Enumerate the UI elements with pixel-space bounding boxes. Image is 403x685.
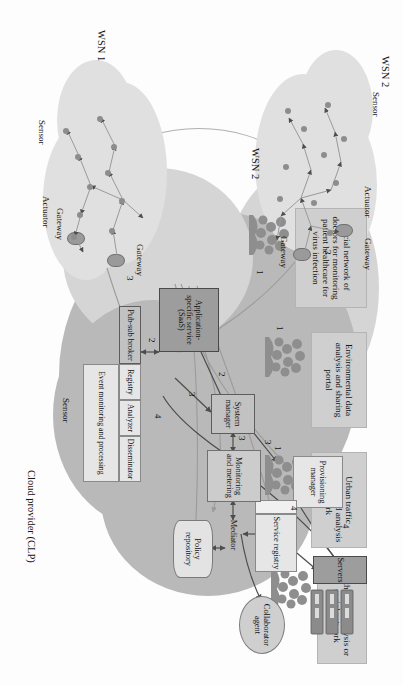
consumer-label-environmental: Environmental data analysis and sharing … (324, 337, 355, 423)
component-label-servers: Servers (335, 557, 344, 582)
wsn1-gateway-label-2: Gateway (55, 208, 65, 240)
component-label-disseminator: Disseminator (126, 439, 134, 480)
wsn2-node (327, 230, 333, 236)
component-label-mediator: Mediator (228, 520, 237, 551)
wsn2-node (341, 136, 347, 142)
flow-number-pubsub-system: 3 (187, 392, 197, 397)
architecture-diagram: Other data analysis or social network Ur… (0, 0, 403, 685)
wsn1-node (119, 198, 125, 204)
wsn2-node (311, 200, 317, 206)
component-label-system-manager: System manager (224, 396, 242, 432)
wsn1-node (111, 144, 117, 150)
flow-number-wsn2-gateway: 3 (323, 250, 333, 255)
flow-number-consumer-1b: 1 (273, 446, 283, 451)
wsn2-links (251, 50, 377, 265)
component-servers[interactable]: Servers (313, 556, 367, 584)
wsn1-node (105, 170, 111, 176)
wsn1-node (77, 212, 83, 218)
component-service-registry[interactable]: Service registry (255, 514, 297, 572)
component-analyzer[interactable]: Analyzer (119, 400, 141, 436)
flow-number-provisioning-servers: 4 (341, 524, 351, 529)
component-provisioning-manager[interactable]: Provisioning manager (293, 456, 343, 508)
component-disseminator[interactable]: Disseminator (119, 436, 141, 482)
wsn2-gateway-label-1: Gateway (279, 236, 289, 268)
wsn1-node (71, 234, 77, 240)
flow-number-monitoring-servers: 4 (289, 506, 299, 511)
wsn2-sensor-label: Sensor (371, 92, 381, 117)
people-group-icon-environmental (265, 334, 307, 380)
wsn1-node (63, 128, 69, 134)
component-label-collaborator-agent: Collaborator agent (253, 597, 271, 653)
flow-number-consumer-1c: 1 (275, 326, 285, 331)
flow-number-consumer-1d: 1 (255, 270, 265, 275)
wsn1-label: WSN 1 (96, 30, 107, 61)
component-label-service-registry: Service registry (271, 517, 280, 570)
wsn2-label-secondary: WSN 2 (380, 56, 391, 87)
wsn2-label: WSN 2 (250, 148, 261, 179)
wsn1-sensor-label: Sensor (37, 120, 47, 145)
component-label-policy-repository: Policy repository (184, 521, 202, 577)
component-label-monitoring-and-metering: Monitoring and metering (225, 452, 243, 500)
component-label-pubsub-broker: Pub-sub broker (125, 309, 134, 360)
flow-number-pubsub-monitoring: 4 (153, 414, 163, 419)
wsn2-node (283, 164, 289, 170)
flow-number-saas-pubsub: 2 (147, 338, 157, 343)
component-label-event-monitoring: Event monitoring and processing (97, 371, 106, 474)
component-system-manager[interactable]: System manager (211, 394, 255, 434)
consumer-box-environmental[interactable]: Environmental data analysis and sharing … (311, 332, 367, 428)
flow-number-system-provisioning: 3 (263, 440, 273, 445)
wsn2-gateway-label-2: Gateway (363, 238, 373, 270)
wsn2-actuator-label: Actuator (363, 186, 373, 218)
wsn2-node (301, 126, 307, 132)
flow-number-wsn1-gateway: 3 (125, 276, 135, 281)
component-label-analyzer: Analyzer (126, 404, 134, 432)
wsn1-node (87, 184, 93, 190)
wsn2-node (285, 108, 291, 114)
server-rack-icon (309, 588, 355, 638)
flow-number-system-monitoring: 3 (237, 436, 247, 441)
wsn2-node (333, 180, 339, 186)
rotated-figure-wrapper: Other data analysis or social network Ur… (0, 0, 403, 685)
wsn2-node (321, 152, 327, 158)
component-mediator[interactable]: Mediator (219, 516, 247, 554)
component-collaborator-agent[interactable]: Collaborator agent (239, 596, 285, 654)
wsn1-gateway-label-1: Gateway (135, 244, 145, 276)
component-label-provisioning-manager: Provisioning manager (309, 458, 327, 506)
component-monitoring-and-metering[interactable]: Monitoring and metering (207, 450, 261, 502)
wsn1-node (109, 228, 115, 234)
component-policy-repository[interactable]: Policy repository (173, 520, 213, 578)
component-label-saas: Application-specific service (SaaS) (176, 290, 202, 350)
wsn2-node (325, 102, 331, 108)
wsn1-actuator-label: Actuator (41, 196, 51, 228)
component-saas[interactable]: Application-specific service (SaaS) (159, 288, 219, 352)
wsn2-node (277, 196, 283, 202)
component-registry[interactable]: Registry (119, 364, 141, 400)
flow-number-saas-system: 2 (217, 372, 227, 377)
component-event-monitoring[interactable]: Event monitoring and processing (83, 364, 119, 482)
cloud-provider-caption: Cloud provider (CLP) (26, 470, 37, 563)
wsn1-node (97, 116, 103, 122)
component-pubsub-broker[interactable]: Pub-sub broker (119, 306, 141, 364)
cloud-sensor-label: Sensor (61, 398, 71, 423)
component-label-registry: Registry (126, 369, 134, 395)
wsn1-node (75, 154, 81, 160)
